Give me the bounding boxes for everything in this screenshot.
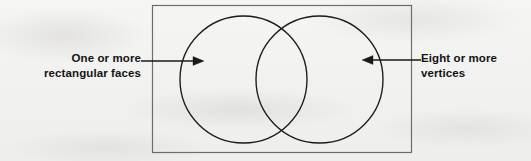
left-set-label-line-2: rectangular faces — [0, 66, 141, 81]
right-set-label-line-2: vertices — [421, 66, 531, 81]
right-set-circle — [256, 16, 383, 143]
left-set-circle — [180, 16, 307, 143]
right-arrow — [362, 56, 421, 65]
right-set-label-line-1: Eight or more — [421, 51, 531, 66]
venn-diagram-figure: One or more rectangular faces Eight or m… — [0, 0, 531, 161]
left-set-label: One or more rectangular faces — [0, 51, 141, 81]
left-set-label-line-1: One or more — [0, 51, 141, 66]
right-set-label: Eight or more vertices — [421, 51, 531, 81]
left-arrow — [141, 57, 204, 66]
